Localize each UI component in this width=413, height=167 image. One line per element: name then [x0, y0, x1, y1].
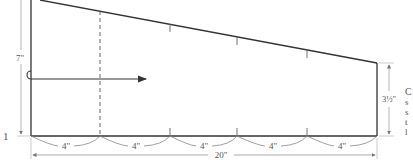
step-number: 1 [3, 130, 9, 142]
segment-labels: 4" 4" 4" 4" 4" [62, 141, 347, 151]
svg-text:t: t [405, 117, 408, 127]
segment-label: 4" [338, 141, 347, 151]
svg-text:s: s [405, 97, 409, 107]
bottom-tick-marks [170, 128, 307, 136]
top-tick-marks [170, 24, 307, 58]
svg-text:s: s [405, 107, 409, 117]
segment-label: 4" [132, 141, 141, 151]
pattern-diagram: 4" 4" 4" 4" 4" 20" 7" 3½" 1 C s s t l [0, 0, 413, 167]
right-height-label: 3½" [382, 94, 396, 104]
panel-outline [31, 0, 377, 136]
segment-label: 4" [269, 141, 278, 151]
total-width-label: 20" [215, 150, 228, 160]
left-height-label: 7" [16, 53, 25, 63]
right-height-dimension: 3½" [379, 63, 396, 136]
direction-arrow-icon [27, 71, 146, 79]
svg-text:l: l [405, 127, 408, 137]
svg-text:C: C [405, 86, 412, 97]
segment-label: 4" [62, 141, 71, 151]
segment-label: 4" [200, 141, 209, 151]
left-height-dimension: 7" [16, 0, 30, 136]
side-text-fragment: C s s t l [405, 86, 412, 137]
